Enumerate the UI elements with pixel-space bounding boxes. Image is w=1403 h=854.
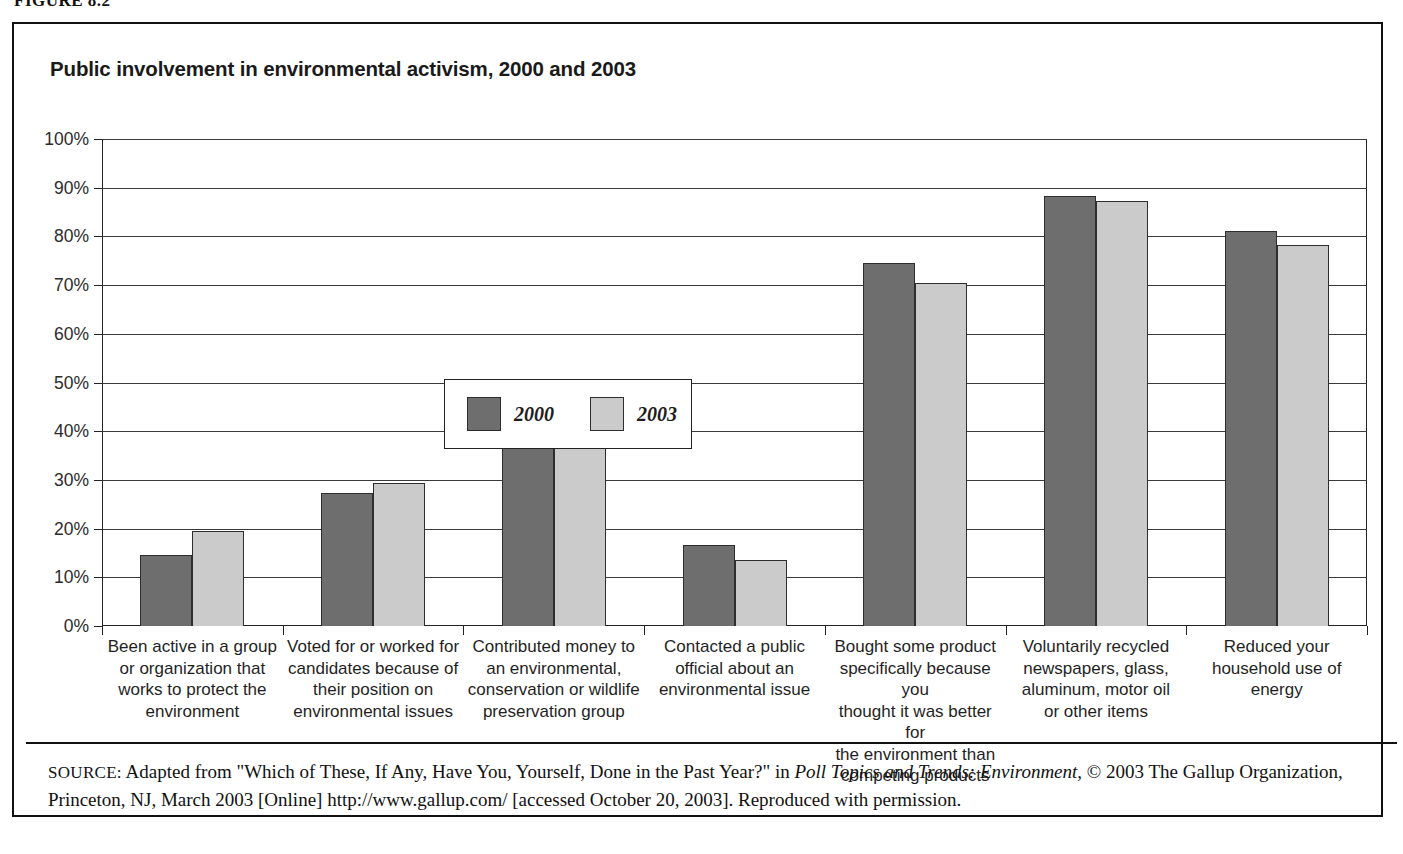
bar-2003 (735, 560, 787, 626)
y-axis-tick-label: 60% (54, 323, 89, 344)
y-axis-tick (94, 577, 102, 578)
y-axis-tick-label: 80% (54, 226, 89, 247)
bar-2000 (502, 435, 554, 626)
y-axis-tick-label: 0% (64, 616, 89, 637)
bar-group (283, 139, 464, 626)
bar-2003 (554, 426, 606, 626)
y-axis-tick (94, 236, 102, 237)
bar-2000 (1225, 231, 1277, 626)
source-label: SOURCE: (48, 763, 122, 782)
y-axis-tick (94, 529, 102, 530)
source-divider (26, 742, 1397, 744)
x-axis-tick (1367, 626, 1368, 635)
y-axis-tick (94, 480, 102, 481)
bar-group (102, 139, 283, 626)
bars-layer (102, 139, 1367, 626)
legend-swatch-2000 (467, 397, 501, 431)
y-axis-tick-label: 90% (54, 177, 89, 198)
figure-caption: FIGURE 8.2 (14, 0, 111, 11)
y-axis-tick (94, 188, 102, 189)
x-axis-tick (102, 626, 103, 635)
y-axis-tick-label: 30% (54, 469, 89, 490)
y-axis-tick-label: 20% (54, 518, 89, 539)
figure-frame: Public involvement in environmental acti… (12, 22, 1383, 817)
x-axis-tick (825, 626, 826, 635)
y-axis-tick-label: 100% (44, 129, 89, 150)
y-axis-tick (94, 383, 102, 384)
legend-entry-2000: 2000 (467, 397, 554, 431)
chart-title: Public involvement in environmental acti… (50, 57, 636, 81)
bar-group (1006, 139, 1187, 626)
bar-2000 (863, 263, 915, 626)
x-axis-tick (644, 626, 645, 635)
x-axis-tick (1186, 626, 1187, 635)
legend-label-2000: 2000 (514, 403, 554, 426)
bar-2003 (373, 483, 425, 626)
bar-group (1186, 139, 1367, 626)
chart-legend: 20002003 (444, 379, 692, 449)
bar-2000 (140, 555, 192, 626)
source-text-before: Adapted from "Which of These, If Any, Ha… (122, 761, 795, 782)
x-axis-ticks (102, 626, 1367, 635)
bar-2003 (192, 531, 244, 626)
legend-label-2003: 2003 (637, 403, 677, 426)
y-axis-tick (94, 626, 102, 627)
bar-2000 (683, 545, 735, 626)
x-axis-tick (283, 626, 284, 635)
y-axis-tick (94, 285, 102, 286)
y-axis-tick (94, 431, 102, 432)
source-note: SOURCE: Adapted from "Which of These, If… (48, 758, 1378, 813)
y-axis-tick-label: 50% (54, 372, 89, 393)
y-axis-tick-label: 70% (54, 275, 89, 296)
x-axis-tick (1006, 626, 1007, 635)
y-axis-tick (94, 139, 102, 140)
y-axis-tick-label: 10% (54, 567, 89, 588)
bar-2000 (1044, 196, 1096, 626)
y-axis-tick-label: 40% (54, 421, 89, 442)
source-publication-title: Poll Topics and Trends: Environment, (794, 761, 1082, 782)
bar-2003 (915, 283, 967, 626)
bar-2003 (1096, 201, 1148, 626)
chart-plot-wrapper: 0%10%20%30%40%50%60%70%80%90%100% 200020… (102, 139, 1367, 626)
legend-swatch-2003 (590, 397, 624, 431)
bar-group (825, 139, 1006, 626)
y-axis-tick (94, 334, 102, 335)
legend-entry-2003: 2003 (590, 397, 677, 431)
bar-2003 (1277, 245, 1329, 626)
x-axis-tick (463, 626, 464, 635)
bar-2000 (321, 493, 373, 626)
